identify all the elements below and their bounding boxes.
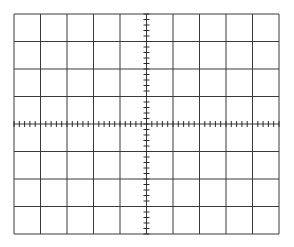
oscilloscope-graticule: [0, 0, 294, 247]
